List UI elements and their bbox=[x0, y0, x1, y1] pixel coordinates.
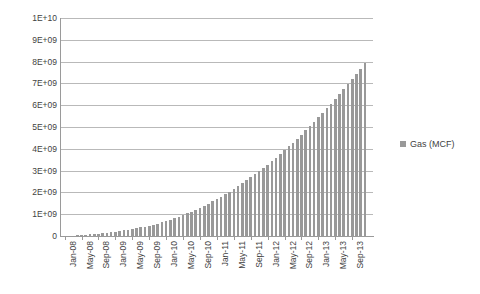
bar bbox=[165, 221, 168, 236]
bar bbox=[224, 194, 227, 236]
x-axis-tick-label: May-12 bbox=[289, 241, 298, 269]
bar bbox=[190, 212, 193, 236]
y-axis-tick-label: 0 bbox=[3, 232, 57, 241]
x-axis-tick-mark bbox=[285, 236, 286, 240]
bar bbox=[89, 234, 92, 236]
bar bbox=[330, 104, 333, 236]
y-axis-tick-label: 1E+09 bbox=[3, 210, 57, 219]
bar bbox=[220, 197, 223, 236]
x-axis-tick-mark bbox=[98, 236, 99, 240]
bar bbox=[101, 233, 104, 236]
bar-series-gas bbox=[61, 18, 373, 236]
bar bbox=[334, 99, 337, 236]
bar bbox=[178, 217, 181, 236]
x-axis-tick-mark bbox=[82, 236, 83, 240]
bar bbox=[68, 236, 71, 237]
x-axis-tick-mark bbox=[352, 236, 353, 240]
x-axis-tick-label: Sep-11 bbox=[255, 241, 264, 268]
x-axis-tick-label: Jan-09 bbox=[119, 241, 128, 267]
bar bbox=[262, 168, 265, 236]
bar bbox=[254, 174, 257, 236]
bar bbox=[135, 228, 138, 236]
x-axis-tick-mark bbox=[268, 236, 269, 240]
x-axis-tick-label: Jan-12 bbox=[272, 241, 281, 267]
y-axis-tick-label: 8E+09 bbox=[3, 58, 57, 67]
x-axis-tick-label: Sep-12 bbox=[305, 241, 314, 268]
y-axis-tick-label: 1E+10 bbox=[3, 14, 57, 23]
x-axis-tick-mark bbox=[65, 236, 66, 240]
bar bbox=[317, 117, 320, 236]
bar bbox=[203, 206, 206, 236]
bar bbox=[76, 235, 79, 236]
bar bbox=[258, 171, 261, 236]
y-axis-tick-label: 6E+09 bbox=[3, 101, 57, 110]
bar bbox=[161, 222, 164, 236]
bar bbox=[338, 94, 341, 236]
bar bbox=[279, 154, 282, 236]
x-axis-tick-label: Sep-08 bbox=[102, 241, 111, 268]
bar bbox=[169, 220, 172, 236]
bar bbox=[309, 126, 312, 236]
x-axis-tick-mark bbox=[301, 236, 302, 240]
legend-label-gas: Gas (MCF) bbox=[410, 139, 455, 149]
x-axis-tick-label: May-10 bbox=[187, 241, 196, 269]
bar bbox=[364, 63, 367, 236]
bar bbox=[321, 113, 324, 236]
x-axis-tick-label: Jan-11 bbox=[221, 241, 230, 266]
bar bbox=[211, 201, 214, 236]
x-axis-tick-mark bbox=[149, 236, 150, 240]
bar bbox=[266, 165, 269, 236]
x-axis-tick-mark bbox=[335, 236, 336, 240]
x-axis-tick-mark bbox=[217, 236, 218, 240]
x-axis-tick-label: May-08 bbox=[86, 241, 95, 269]
y-axis-tick-label: 9E+09 bbox=[3, 36, 57, 45]
bar bbox=[283, 150, 286, 236]
x-axis-tick-label: May-09 bbox=[136, 241, 145, 269]
x-axis-tick-mark bbox=[200, 236, 201, 240]
x-axis-tick-label: Sep-09 bbox=[153, 241, 162, 268]
bar bbox=[292, 143, 295, 236]
bar bbox=[118, 231, 121, 236]
y-axis-tick-label: 5E+09 bbox=[3, 123, 57, 132]
x-axis-tick-mark bbox=[251, 236, 252, 240]
bar bbox=[304, 130, 307, 236]
bar bbox=[249, 177, 252, 236]
y-axis-tick-label: 3E+09 bbox=[3, 167, 57, 176]
bar bbox=[326, 108, 329, 236]
bar bbox=[237, 186, 240, 236]
bar bbox=[313, 122, 316, 236]
y-axis-tick-label: 2E+09 bbox=[3, 188, 57, 197]
x-axis-tick-label: Sep-10 bbox=[204, 241, 213, 268]
x-axis-tick-mark bbox=[234, 236, 235, 240]
bar bbox=[186, 213, 189, 236]
bar bbox=[241, 183, 244, 236]
bar bbox=[288, 146, 291, 236]
bar bbox=[84, 235, 87, 236]
legend-swatch-gas bbox=[400, 141, 406, 147]
bar bbox=[359, 69, 362, 236]
y-axis-tick-label: 7E+09 bbox=[3, 79, 57, 88]
bar bbox=[207, 204, 210, 236]
bar bbox=[342, 89, 345, 236]
bar bbox=[110, 232, 113, 236]
gas-production-bar-chart: 1E+109E+098E+097E+096E+095E+094E+093E+09… bbox=[0, 0, 480, 294]
bar bbox=[199, 208, 202, 236]
x-axis-tick-mark bbox=[318, 236, 319, 240]
bar bbox=[300, 135, 303, 236]
chart-legend: Gas (MCF) bbox=[400, 139, 455, 149]
y-axis-tick-label: 4E+09 bbox=[3, 145, 57, 154]
x-axis-tick-mark bbox=[166, 236, 167, 240]
bar bbox=[148, 226, 151, 236]
bar bbox=[347, 84, 350, 236]
bar bbox=[228, 192, 231, 236]
bar bbox=[127, 230, 130, 236]
x-axis-tick-label: Jan-13 bbox=[322, 241, 331, 267]
bar bbox=[355, 74, 358, 236]
bar bbox=[351, 79, 354, 236]
bar bbox=[123, 230, 126, 236]
bar bbox=[271, 161, 274, 236]
bar bbox=[131, 229, 134, 236]
bar bbox=[152, 225, 155, 236]
bar bbox=[156, 224, 159, 237]
x-axis-tick-label: May-13 bbox=[339, 241, 348, 269]
